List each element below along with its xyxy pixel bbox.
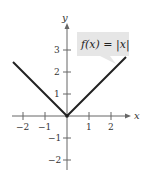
function-label: f(x) = |x| <box>80 38 130 52</box>
y-tick-label: 3 <box>54 45 60 55</box>
y-tick-label: 2 <box>54 67 60 77</box>
x-tick-label: 1 <box>86 122 92 132</box>
x-tick-label: 2 <box>108 122 114 132</box>
y-tick-label: −1 <box>48 133 61 143</box>
callout-pointer <box>100 56 116 64</box>
x-axis-label: x <box>134 110 140 121</box>
y-axis-arrow-icon <box>65 23 70 29</box>
vertex-point <box>65 114 69 118</box>
x-tick-label: −1 <box>38 122 51 132</box>
x-tick-label: −2 <box>16 122 29 132</box>
x-axis-arrow-icon <box>125 114 131 119</box>
abs-value-line <box>13 57 126 116</box>
y-tick-label: 1 <box>54 89 60 99</box>
absolute-value-chart: x y −2 −1 1 2 3 2 1 −1 −2 f(x) = |x| <box>0 0 148 182</box>
y-tick-label: −2 <box>48 155 61 165</box>
y-axis-label: y <box>61 12 68 23</box>
